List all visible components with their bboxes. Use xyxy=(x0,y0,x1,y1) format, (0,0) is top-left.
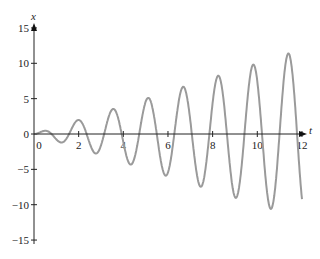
y-axis-ticks: −15−10−5051015 xyxy=(12,22,37,246)
y-tick-label: −10 xyxy=(12,199,30,211)
x-tick-label: 8 xyxy=(210,139,216,151)
y-axis-arrow-icon xyxy=(31,23,37,31)
y-tick-label: 15 xyxy=(18,22,30,34)
y-tick-label: 10 xyxy=(18,57,30,69)
y-tick-label: 5 xyxy=(24,93,30,105)
x-tick-label: 0 xyxy=(36,139,42,151)
y-tick-label: −5 xyxy=(17,163,29,175)
chart: −15−10−5051015 024681012 x t xyxy=(0,0,320,259)
x-axis-arrow-icon xyxy=(299,131,307,137)
y-tick-label: 0 xyxy=(24,128,30,140)
x-tick-label: 2 xyxy=(76,139,82,151)
y-tick-label: −15 xyxy=(12,234,30,246)
y-axis-label: x xyxy=(30,10,36,22)
x-tick-label: 6 xyxy=(165,139,171,151)
x-axis-label: t xyxy=(309,124,313,136)
